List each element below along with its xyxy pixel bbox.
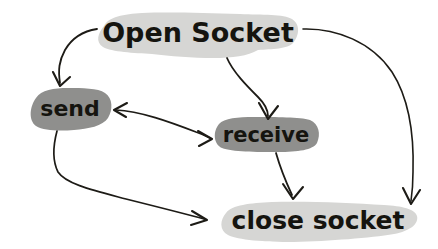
edge-receive-to-close <box>276 153 303 199</box>
flowchart-svg: Open Socket send receive close socket <box>0 0 438 249</box>
edge-open-to-send-path <box>59 29 97 83</box>
node-label-send: send <box>40 96 99 121</box>
edge-send-to-close-path <box>54 131 204 219</box>
edge-send-to-receive-path <box>116 110 210 138</box>
edge-open-to-send-arrowhead <box>53 72 70 86</box>
node-label-receive: receive <box>223 123 309 147</box>
edge-open-to-receive <box>227 58 278 119</box>
edge-receive-to-close-arrowhead <box>283 184 303 199</box>
node-label-close-socket: close socket <box>232 206 405 235</box>
edge-send-to-receive <box>114 103 212 146</box>
edge-open-to-close-path <box>303 29 413 201</box>
edge-open-to-send <box>53 29 97 86</box>
edge-send-to-receive-arrowhead-right <box>198 131 212 146</box>
edge-send-to-close <box>54 131 207 225</box>
edge-open-to-close <box>303 29 420 204</box>
diagram-canvas: Open Socket send receive close socket <box>0 0 438 249</box>
node-label-open-socket: Open Socket <box>102 17 294 48</box>
edge-receive-to-close-path <box>276 153 292 195</box>
